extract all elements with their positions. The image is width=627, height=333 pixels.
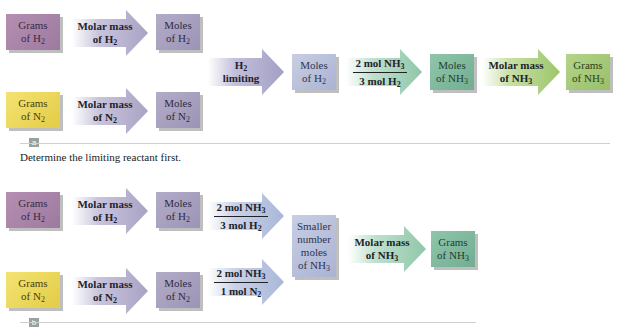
label: of N [21, 110, 41, 122]
label: of N [93, 291, 113, 303]
label: 1 mol N [221, 285, 258, 297]
subscript: 2 [113, 116, 117, 125]
subscript: 2 [186, 37, 190, 46]
subscript: 2 [397, 80, 401, 89]
subscript: 3 [600, 77, 604, 86]
label: 3 mol H [359, 75, 396, 87]
subscript: 3 [262, 206, 266, 215]
moles-n2-box: Molesof N2 [156, 92, 200, 128]
label: of H [166, 210, 186, 222]
label: of N [166, 290, 186, 302]
label: of NH [500, 72, 528, 84]
label: moles [301, 246, 327, 258]
label: limiting [223, 72, 260, 85]
subscript: 3 [464, 77, 468, 86]
moles-h2-box: Molesof H2 [156, 14, 200, 50]
subscript: 2 [322, 77, 326, 86]
label: Moles [164, 97, 192, 109]
mole-ratio-n2-arrow-b: 2 mol NH31 mol N2 [208, 259, 284, 305]
label: Molar mass [77, 278, 132, 291]
label: of H [93, 211, 113, 223]
label: Moles [300, 59, 328, 71]
mole-ratio-arrow: 2 mol NH33 mol H2 [346, 49, 422, 95]
subscript: 3 [465, 254, 469, 263]
molar-mass-h2-arrow-b: Molar massof H2 [72, 188, 148, 234]
moles-h2-box-b: Molesof H2 [156, 192, 200, 228]
subscript: 3 [394, 254, 398, 263]
molar-mass-n2-arrow-b: Molar massof N2 [72, 268, 148, 314]
h2-limiting-arrow: H2limiting [208, 49, 284, 95]
label: Grams [573, 59, 602, 71]
molar-mass-nh3-arrow: Molar massof NH3 [482, 49, 560, 95]
label: Grams [18, 19, 47, 31]
subscript: 2 [186, 215, 190, 224]
subscript: 2 [41, 37, 45, 46]
molar-mass-h2-arrow: Molar massof H2 [72, 10, 148, 56]
label: Molar mass [77, 20, 132, 33]
label: Molar mass [354, 236, 409, 249]
subscript: 3 [401, 62, 405, 71]
label: Moles [438, 59, 466, 71]
grams-h2-box: Gramsof H2 [6, 14, 60, 50]
moles-h2-limiting-box: Molesof H2 [292, 54, 336, 90]
label: of NH [437, 249, 465, 261]
label: 3 mol H [220, 219, 257, 231]
label: of H [21, 32, 41, 44]
subscript: 2 [113, 296, 117, 305]
separator-b [20, 322, 476, 323]
moles-n2-box-b: Molesof N2 [156, 272, 200, 308]
label: of H [166, 32, 186, 44]
grams-h2-box-b: Gramsof H2 [6, 192, 60, 228]
label: of NH [572, 72, 600, 84]
subscript: 2 [41, 115, 45, 124]
grams-nh3-box: Gramsof NH3 [566, 54, 610, 90]
grams-n2-box: Gramsof N2 [6, 92, 60, 128]
label: 2 mol NH [216, 267, 261, 279]
molar-mass-n2-arrow: Molar massof N2 [72, 88, 148, 134]
subscript: 2 [186, 295, 190, 304]
label: of NH [298, 259, 326, 271]
label: Molar mass [488, 59, 543, 72]
label: Moles [164, 277, 192, 289]
label: 2 mol NH [355, 57, 400, 69]
subscript: 2 [258, 224, 262, 233]
subscript: 2 [41, 215, 45, 224]
label: Molar mass [77, 98, 132, 111]
subscript: 3 [326, 264, 330, 273]
subscript: 2 [257, 290, 261, 299]
mole-ratio-h2-arrow-b: 2 mol NH33 mol H2 [208, 193, 284, 239]
label: Grams [438, 236, 467, 248]
label: Grams [18, 197, 47, 209]
grams-n2-box-b: Gramsof N2 [6, 272, 60, 308]
label: of N [21, 290, 41, 302]
subscript: 2 [186, 115, 190, 124]
label: Grams [18, 277, 47, 289]
caption-a: Determine the limiting reactant first. [20, 151, 181, 163]
subscript: 2 [113, 216, 117, 225]
subscript: 2 [113, 38, 117, 47]
label: of H [21, 210, 41, 222]
moles-nh3-box: Molesof NH3 [430, 54, 474, 90]
subscript: 3 [262, 272, 266, 281]
label: Moles [164, 19, 192, 31]
molar-mass-nh3-arrow-b: Molar massof NH3 [348, 226, 426, 272]
grams-nh3-box-b: Gramsof NH3 [431, 231, 475, 267]
subscript: 2 [41, 295, 45, 304]
label: of N [166, 110, 186, 122]
subscript: 3 [528, 77, 532, 86]
label: Molar mass [77, 198, 132, 211]
separator-a [20, 143, 610, 144]
label: of H [93, 33, 113, 45]
label: 2 mol NH [216, 201, 261, 213]
label: of NH [436, 72, 464, 84]
label: Smaller [297, 220, 331, 232]
label: of H [302, 72, 322, 84]
label: of N [93, 111, 113, 123]
label: Moles [164, 197, 192, 209]
label: number [297, 233, 331, 245]
smaller-moles-nh3-box: Smallernumbermolesof NH3 [292, 215, 336, 277]
label: Grams [18, 97, 47, 109]
label: of NH [366, 249, 394, 261]
label: H [235, 59, 244, 71]
